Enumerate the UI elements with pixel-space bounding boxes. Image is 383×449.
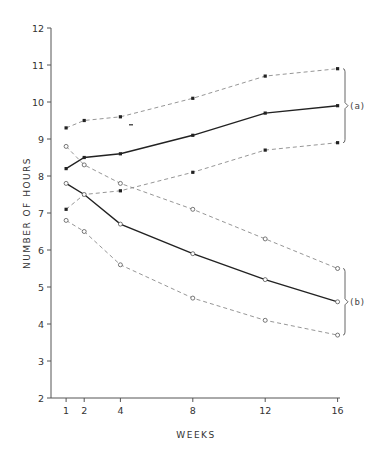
series-b-5 (64, 218, 340, 337)
open-marker (64, 144, 68, 148)
filled-marker (119, 115, 122, 118)
open-marker (118, 181, 122, 185)
series-layer (64, 67, 340, 337)
filled-marker (191, 171, 194, 174)
open-marker (118, 263, 122, 267)
open-marker (191, 207, 195, 211)
y-tick-label: 12 (32, 23, 44, 34)
open-marker (82, 193, 86, 197)
x-axis-title: WEEKS (176, 430, 215, 440)
stray-mark (129, 124, 133, 126)
open-marker (64, 181, 68, 185)
filled-marker (65, 208, 68, 211)
dashed-line (66, 146, 338, 268)
dashed-line (66, 220, 338, 335)
open-marker (118, 222, 122, 226)
x-tick-label: 4 (117, 405, 123, 416)
solid-line (66, 106, 338, 169)
group-label-a: (a) (349, 101, 365, 111)
x-tick-label: 8 (190, 405, 196, 416)
filled-marker (191, 97, 194, 100)
y-tick-label: 6 (38, 245, 44, 256)
y-tick-label: 9 (38, 134, 44, 145)
series-a-1 (65, 104, 340, 170)
y-axis-title: NUMBER OF HOURS (22, 157, 32, 269)
filled-marker (264, 75, 267, 78)
filled-marker (336, 67, 339, 70)
x-tick-label: 2 (81, 405, 87, 416)
open-marker (82, 163, 86, 167)
filled-marker (65, 126, 68, 129)
y-tick-label: 4 (38, 319, 44, 330)
filled-marker (83, 156, 86, 159)
y-tick-label: 8 (38, 171, 44, 182)
open-marker (336, 300, 340, 304)
filled-marker (191, 134, 194, 137)
line-chart: 2345678910111212481216 (a)(b) WEEKS NUMB… (0, 0, 383, 449)
y-tick-label: 5 (38, 282, 44, 293)
series-b-4 (64, 181, 340, 303)
filled-marker (119, 189, 122, 192)
filled-marker (83, 119, 86, 122)
y-tick-label: 2 (38, 393, 44, 404)
group-label-b: (b) (349, 297, 365, 307)
dashed-line (66, 69, 338, 128)
open-marker (82, 230, 86, 234)
filled-marker (336, 141, 339, 144)
axes: 2345678910111212481216 (32, 23, 344, 417)
filled-marker (264, 149, 267, 152)
open-marker (64, 218, 68, 222)
filled-marker (336, 104, 339, 107)
filled-marker (264, 112, 267, 115)
group-brackets: (a)(b) (343, 69, 365, 335)
open-marker (191, 296, 195, 300)
open-marker (191, 252, 195, 256)
open-marker (336, 333, 340, 337)
y-tick-label: 11 (32, 60, 44, 71)
open-marker (263, 318, 267, 322)
bracket-a (343, 69, 348, 143)
y-tick-label: 10 (32, 97, 44, 108)
y-tick-label: 7 (38, 208, 44, 219)
bracket-b (343, 269, 348, 336)
series-a-0 (65, 67, 340, 129)
open-marker (263, 278, 267, 282)
filled-marker (65, 167, 68, 170)
filled-marker (119, 152, 122, 155)
open-marker (263, 237, 267, 241)
x-tick-label: 16 (332, 405, 344, 416)
x-tick-label: 1 (63, 405, 69, 416)
y-tick-label: 3 (38, 356, 44, 367)
x-tick-label: 12 (259, 405, 271, 416)
solid-line (66, 183, 338, 301)
open-marker (336, 267, 340, 271)
